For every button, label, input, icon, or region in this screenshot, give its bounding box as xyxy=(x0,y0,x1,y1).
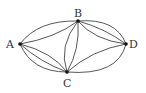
node-a xyxy=(18,42,22,46)
edge-a-b-outer xyxy=(20,21,78,44)
label-c: C xyxy=(63,77,71,90)
node-c xyxy=(65,70,69,74)
graph-diagram: A B C D xyxy=(0,0,146,93)
edge-b-d-outer xyxy=(78,21,126,44)
label-d: D xyxy=(129,38,138,51)
edge-a-c-outer xyxy=(20,44,67,72)
label-a: A xyxy=(5,38,15,51)
node-d xyxy=(124,42,128,46)
label-b: B xyxy=(74,7,82,20)
